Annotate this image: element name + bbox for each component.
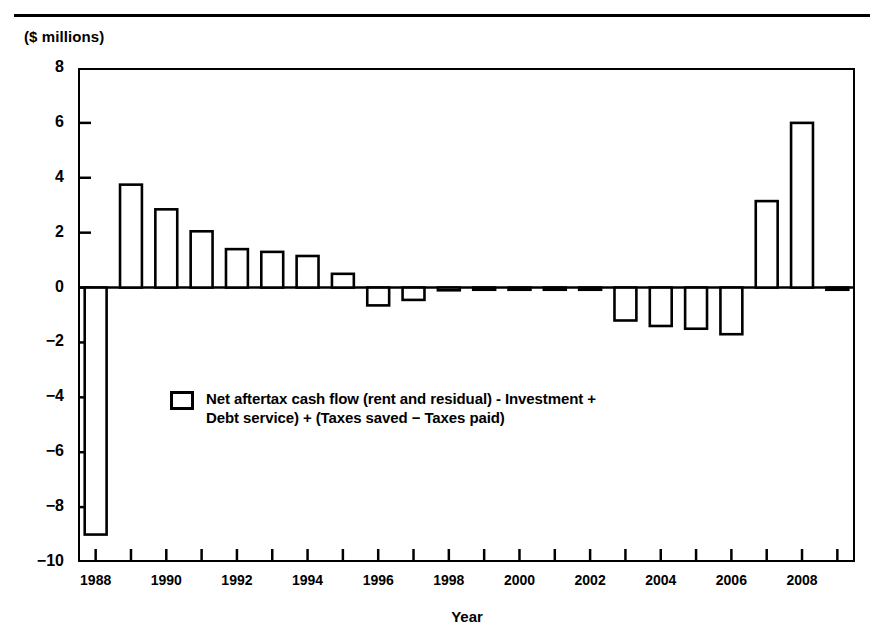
y-axis-tick-label: −6 bbox=[8, 442, 64, 460]
y-axis-tick-label: −4 bbox=[8, 387, 64, 405]
x-axis-tick-label: 1998 bbox=[417, 572, 481, 588]
x-axis-tick-label: 1996 bbox=[346, 572, 410, 588]
x-axis-tick-label: 1988 bbox=[64, 572, 128, 588]
x-axis-tick-label: 2006 bbox=[699, 572, 763, 588]
y-axis-tick-label: −10 bbox=[8, 552, 64, 570]
x-axis-tick-label: 1990 bbox=[134, 572, 198, 588]
y-axis-tick-label: −2 bbox=[8, 332, 64, 350]
legend-swatch-icon bbox=[170, 391, 194, 410]
x-axis-tick-label: 2008 bbox=[770, 572, 834, 588]
y-axis-tick-label: −8 bbox=[8, 497, 64, 515]
y-axis-tick-label: 6 bbox=[8, 113, 64, 131]
figure-container: ($ millions) 86420−2−4−6−8−10 1988199019… bbox=[0, 0, 883, 641]
x-axis-tick-label: 1994 bbox=[276, 572, 340, 588]
legend-label: Net aftertax cash flow (rent and residua… bbox=[206, 389, 596, 427]
y-axis-tick-label: 8 bbox=[8, 58, 64, 76]
plot-frame bbox=[78, 68, 855, 562]
x-axis-tick-label: 1992 bbox=[205, 572, 269, 588]
y-axis-tick-label: 2 bbox=[8, 223, 64, 241]
x-axis-tick-label: 2002 bbox=[558, 572, 622, 588]
chart-legend: Net aftertax cash flow (rent and residua… bbox=[170, 389, 596, 427]
y-axis-tick-label: 4 bbox=[8, 168, 64, 186]
x-axis-tick-label: 2000 bbox=[487, 572, 551, 588]
y-axis-tick-label: 0 bbox=[8, 278, 64, 296]
x-axis-tick-label: 2004 bbox=[629, 572, 693, 588]
x-axis-title: Year bbox=[367, 608, 567, 625]
